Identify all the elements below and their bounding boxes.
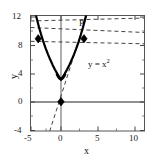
x-tick-label-5: 5 [95,134,100,143]
y-tick-label-12: 12 [12,12,21,21]
secant-flat-left [31,28,145,33]
chart-figure: 12 8 4 0 -4 -5 0 5 10 y x y = x2 P [0,0,155,159]
curve-label: y = x2 [88,58,110,69]
x-axis-title: x [84,146,89,156]
y-major-ticks [31,17,36,131]
x-tick-label-minus-5: -5 [24,134,32,143]
secant-upper-through-p [31,18,145,21]
secant-lower-through-p [31,41,145,44]
point-marker-p [81,35,87,43]
curve-label-exponent: 2 [107,57,110,64]
x-tick-label-0: 0 [58,134,63,143]
y-tick-label-minus-4: -4 [14,126,22,135]
y-major-ticks-right [140,17,145,131]
y-tick-label-0: 0 [18,97,23,106]
curve-label-base: y = x [88,59,107,69]
point-p-label: P [79,19,84,28]
x-tick-label-10: 10 [129,134,138,143]
y-axis-title: y [9,74,19,79]
x-major-ticks [31,127,135,132]
y-tick-label-8: 8 [18,41,23,50]
plot-frame [31,16,145,132]
